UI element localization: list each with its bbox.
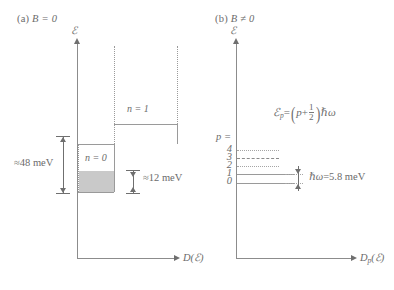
panel-a-band-n0-top bbox=[78, 144, 114, 145]
panel-a-energy-axis-arrowhead bbox=[74, 38, 80, 44]
panel-b-caption-expr: B ≠ 0 bbox=[231, 13, 255, 24]
panel-a-band-n1-left-edge bbox=[114, 46, 115, 144]
formula-hbar-omega: ℏω bbox=[321, 106, 336, 118]
panel-b-spacing-unit: meV bbox=[345, 171, 365, 182]
panel-b-spacing-label: ℏω=5.8 meV bbox=[309, 170, 365, 182]
panel-b-spacing-symbol: ℏω bbox=[309, 171, 323, 182]
panel-a-zero-field: (a) B = 0 ℰ D(ℰ) n = 1 n = 0 ≈48 meV bbox=[0, 0, 200, 290]
panel-a-dos-axis-arrowhead bbox=[174, 255, 180, 261]
panel-a-gap48-bottom-arrowhead bbox=[60, 188, 66, 193]
panel-b-dos-axis-label-arg: (ℰ) bbox=[371, 252, 384, 263]
panel-b-level-line-4 bbox=[237, 150, 279, 151]
panel-b-spacing-bottom-arrowhead bbox=[295, 184, 301, 189]
formula-close-paren: ) bbox=[316, 103, 320, 125]
panel-b-spacing-value: 5.8 bbox=[329, 171, 342, 182]
panel-b-spacing-guide-top bbox=[285, 174, 303, 175]
panel-b-level-line-3 bbox=[237, 158, 279, 159]
panel-b-levels-header: p = bbox=[216, 131, 231, 142]
panel-a-fill12-bottom-tick bbox=[126, 193, 140, 194]
panel-b-dos-axis-label: Dp(ℰ) bbox=[360, 251, 384, 265]
panel-b-levels-header-text: p = bbox=[216, 131, 231, 142]
panel-a-fill12-top-arrowhead bbox=[130, 172, 136, 177]
panel-b-dos-axis-arrowhead bbox=[351, 255, 357, 261]
panel-b-energy-axis bbox=[236, 44, 237, 258]
panel-b-caption-paren: (b) bbox=[215, 13, 228, 24]
panel-a-band-n0-label: n = 0 bbox=[85, 152, 107, 163]
panel-b-energy-axis-arrowhead bbox=[233, 38, 239, 44]
panel-a-band-n1-right-edge bbox=[177, 46, 178, 124]
panel-a-gap48-bottom-tick bbox=[56, 193, 70, 194]
panel-b-dos-axis-label-base: D bbox=[360, 252, 368, 263]
formula-fraction-numerator: 1 bbox=[309, 103, 314, 112]
panel-a-gap48-top-arrowhead bbox=[60, 137, 66, 142]
panel-b-energy-axis-label: ℰ bbox=[230, 24, 236, 36]
formula-fraction-denominator: 2 bbox=[309, 112, 314, 122]
panel-a-band-n1-bottom bbox=[114, 124, 178, 125]
panel-a-energy-axis-label: ℰ bbox=[71, 24, 77, 36]
panel-b-level-index-0: 0 bbox=[219, 175, 232, 186]
panel-a-occupied-states-fill bbox=[79, 171, 114, 192]
panel-a-gap48-label: ≈48 meV bbox=[14, 157, 53, 168]
panel-a-fill12-bottom-arrowhead bbox=[130, 187, 136, 192]
panel-a-dos-axis bbox=[77, 258, 175, 259]
panel-a-fill12-top-tick bbox=[126, 170, 140, 171]
panel-a-caption-expr: B = 0 bbox=[32, 13, 57, 24]
panel-a-gap48-line bbox=[63, 136, 64, 194]
formula-equals: = bbox=[284, 106, 290, 118]
panel-b-dos-axis bbox=[236, 258, 352, 259]
panel-a-caption-paren: (a) bbox=[17, 13, 29, 24]
panel-b-spacing-top-arrowhead bbox=[295, 169, 301, 174]
panel-a-band-n1-label: n = 1 bbox=[127, 103, 149, 114]
figure-root: (a) B = 0 ℰ D(ℰ) n = 1 n = 0 ≈48 meV bbox=[0, 0, 394, 290]
panel-b-level-line-2 bbox=[237, 166, 279, 167]
panel-a-band-n1-step bbox=[177, 124, 178, 144]
formula-lhs-base: ℰ bbox=[273, 106, 280, 118]
formula-fraction: 12 bbox=[309, 103, 314, 123]
formula-open-paren: ( bbox=[291, 103, 295, 125]
panel-b-finite-field: (b) B ≠ 0 ℰ Dp(ℰ) p = 4 3 2 1 0 bbox=[197, 0, 394, 290]
panel-a-band-n0-bottom bbox=[78, 192, 114, 193]
panel-a-fill12-label: ≈12 meV bbox=[143, 172, 182, 183]
formula-plus: + bbox=[302, 106, 308, 118]
panel-b-caption: (b) B ≠ 0 bbox=[215, 13, 254, 24]
panel-b-energy-formula: ℰp=(p+12)ℏω bbox=[273, 103, 336, 125]
panel-a-caption: (a) B = 0 bbox=[17, 13, 57, 24]
panel-a-band-n0-right-edge bbox=[114, 144, 115, 192]
